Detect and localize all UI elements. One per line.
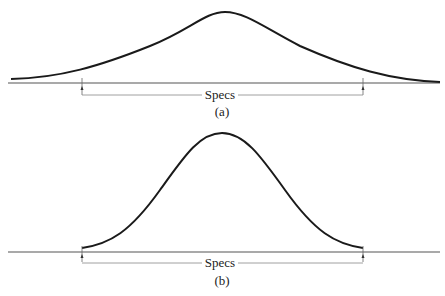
curve-b [82,133,363,248]
caption-b: (b) [214,273,229,288]
curve-a [11,12,440,82]
spec-label-b: Specs [205,255,235,270]
arrow-right-a [362,86,365,90]
arrow-left-a [81,86,84,90]
panel-a: Specs (a) [8,12,440,119]
arrow-right-b [362,254,365,258]
caption-a: (a) [215,104,229,119]
arrow-left-b [81,254,84,258]
panel-b: Specs (b) [8,133,440,288]
spec-label-a: Specs [205,87,235,102]
distribution-diagram: Specs (a) Specs (b) [0,0,445,296]
